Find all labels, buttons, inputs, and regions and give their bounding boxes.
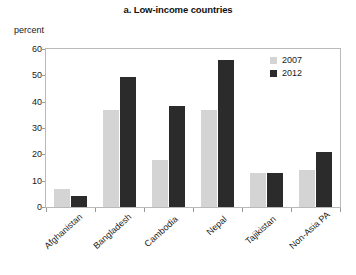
x-axis-tick-mark xyxy=(340,208,341,212)
legend-item-2007: 2007 xyxy=(270,54,302,66)
y-axis-tick-mark xyxy=(41,154,45,155)
x-axis-tick-mark xyxy=(95,208,96,212)
bar-2007 xyxy=(54,189,70,207)
x-axis-tick-mark xyxy=(242,208,243,212)
y-axis-tick-label: 10 xyxy=(0,176,42,186)
x-axis-label-non-asia-pa: Non-Asia PA xyxy=(287,214,326,251)
y-axis-tick-label: 20 xyxy=(0,149,42,159)
bar-2007 xyxy=(299,170,315,207)
chart-title: a. Low-income countries xyxy=(0,4,356,15)
y-axis-tick-mark xyxy=(41,49,45,50)
y-axis-tick-mark xyxy=(41,75,45,76)
y-axis-tick-mark xyxy=(41,128,45,129)
legend-label-2012: 2012 xyxy=(282,68,302,78)
x-axis-tick-mark xyxy=(291,208,292,212)
bar-group xyxy=(193,49,242,207)
chart-figure: a. Low-income countries percent 01020304… xyxy=(0,0,356,275)
x-axis-tick-mark xyxy=(144,208,145,212)
y-axis-tick-label: 60 xyxy=(0,44,42,54)
legend-item-2012: 2012 xyxy=(270,67,302,79)
bar-2012 xyxy=(316,152,332,207)
x-axis-label-tajikistan: Tajikistan xyxy=(238,214,277,251)
bar-group xyxy=(95,49,144,207)
x-axis-tick-mark xyxy=(193,208,194,212)
bar-2007 xyxy=(103,110,119,207)
bar-2012 xyxy=(169,106,185,207)
y-axis-tick-mark xyxy=(41,102,45,103)
bar-2012 xyxy=(71,196,87,207)
bar-2007 xyxy=(152,160,168,207)
legend-swatch-2012 xyxy=(270,70,277,77)
y-axis-tick-label: 40 xyxy=(0,97,42,107)
y-axis-tick-mark xyxy=(41,207,45,208)
bar-2012 xyxy=(120,77,136,207)
y-axis-tick-label: 30 xyxy=(0,123,42,133)
bar-2007 xyxy=(250,173,266,207)
y-axis-tick-label: 0 xyxy=(0,202,42,212)
x-axis-label-afghanistan: Afghanistan xyxy=(42,214,81,251)
legend-label-2007: 2007 xyxy=(282,55,302,65)
x-axis-label-cambodia: Cambodia xyxy=(140,214,179,251)
y-axis-tick-label: 50 xyxy=(0,70,42,80)
y-axis-tick-mark xyxy=(41,181,45,182)
legend-swatch-2007 xyxy=(270,57,277,64)
bar-group xyxy=(144,49,193,207)
bar-2012 xyxy=(218,60,234,207)
y-axis-unit-label: percent xyxy=(14,25,44,35)
x-axis-label-bangladesh: Bangladesh xyxy=(91,214,130,251)
bar-2007 xyxy=(201,110,217,207)
x-axis-tick-mark xyxy=(46,208,47,212)
bar-group xyxy=(46,49,95,207)
chart-legend: 20072012 xyxy=(270,54,302,80)
bar-2012 xyxy=(267,173,283,207)
x-axis-label-nepal: Nepal xyxy=(189,214,228,251)
